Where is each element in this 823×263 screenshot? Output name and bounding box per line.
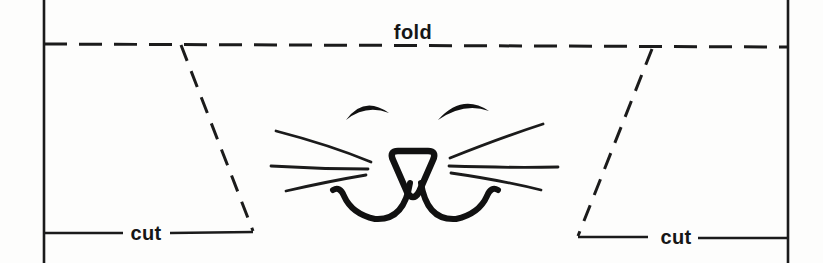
- cut-label-right: cut: [658, 227, 693, 247]
- whisker-right-top: [450, 124, 543, 158]
- whisker-left-middle: [271, 166, 368, 169]
- whisker-left-bottom: [286, 175, 366, 191]
- whisker-left-top: [276, 131, 371, 162]
- left-cut-line-b: [170, 232, 253, 233]
- fold-label: fold: [392, 22, 434, 42]
- cut-label-left: cut: [128, 223, 163, 243]
- cat-mouth-right: [421, 183, 498, 219]
- cat-face-drawing: [271, 104, 558, 219]
- cat-left-eye: [346, 105, 389, 120]
- cat-right-eye: [438, 104, 489, 120]
- whisker-right-middle: [449, 166, 558, 167]
- cat-nose: [392, 151, 434, 197]
- left-diagonal-dashed-line: [181, 45, 253, 231]
- right-diagonal-dashed-line: [578, 49, 652, 236]
- diagram-canvas: fold cut cut: [0, 0, 823, 263]
- cat-whiskers: [271, 124, 558, 191]
- fold-dashed-line: [44, 44, 788, 47]
- cat-mouth-left: [333, 183, 410, 219]
